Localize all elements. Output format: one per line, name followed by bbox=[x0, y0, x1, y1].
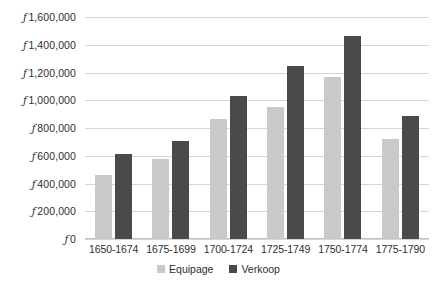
bar-verkoop bbox=[287, 66, 304, 239]
guilder-symbol: ƒ bbox=[23, 67, 29, 79]
guilder-symbol: ƒ bbox=[23, 94, 29, 106]
bar-verkoop bbox=[230, 96, 247, 239]
bar-equipage bbox=[210, 119, 227, 239]
bar-group bbox=[257, 17, 314, 239]
bar-equipage bbox=[324, 77, 341, 239]
y-axis-tick-label: ƒ1,200,000 bbox=[23, 67, 76, 79]
x-axis-tick-label: 1725-1749 bbox=[257, 243, 314, 255]
y-axis-tick-label: ƒ0 bbox=[65, 233, 76, 245]
y-axis-tick-label: ƒ600,000 bbox=[32, 150, 76, 162]
legend-label: Equipage bbox=[169, 263, 213, 275]
bar-equipage bbox=[267, 107, 284, 239]
bar-equipage bbox=[382, 139, 399, 239]
y-axis-tick-label: ƒ400,000 bbox=[32, 178, 76, 190]
bar-verkoop bbox=[172, 141, 189, 240]
legend-label: Verkoop bbox=[241, 263, 280, 275]
bar-group bbox=[85, 17, 142, 239]
bar-equipage bbox=[152, 159, 169, 239]
y-axis-tick-label: ƒ1,600,000 bbox=[23, 11, 76, 23]
y-axis-tick-label: ƒ1,000,000 bbox=[23, 94, 76, 106]
y-axis-tick-label: ƒ200,000 bbox=[32, 205, 76, 217]
gridline bbox=[85, 239, 429, 240]
bar-verkoop bbox=[402, 116, 419, 239]
bar-verkoop bbox=[344, 36, 361, 239]
legend-item-verkoop[interactable]: Verkoop bbox=[229, 263, 280, 275]
guilder-symbol: ƒ bbox=[65, 233, 71, 245]
x-axis-tick-label: 1750-1774 bbox=[314, 243, 371, 255]
guilder-symbol: ƒ bbox=[32, 122, 38, 134]
legend-item-equipage[interactable]: Equipage bbox=[157, 263, 213, 275]
y-axis-labels: ƒ0ƒ200,000ƒ400,000ƒ600,000ƒ800,000ƒ1,000… bbox=[0, 0, 82, 245]
chart-legend: EquipageVerkoop bbox=[0, 263, 437, 275]
y-axis-tick-label: ƒ1,400,000 bbox=[23, 39, 76, 51]
bar-group bbox=[142, 17, 199, 239]
guilder-symbol: ƒ bbox=[32, 150, 38, 162]
guilder-symbol: ƒ bbox=[32, 178, 38, 190]
bar-verkoop bbox=[115, 154, 132, 239]
guilder-symbol: ƒ bbox=[32, 205, 38, 217]
bar-group bbox=[372, 17, 429, 239]
y-axis-tick-label: ƒ800,000 bbox=[32, 122, 76, 134]
x-axis-tick-label: 1650-1674 bbox=[85, 243, 142, 255]
bar-equipage bbox=[95, 175, 112, 239]
bar-groups bbox=[85, 17, 429, 239]
x-axis-tick-label: 1775-1790 bbox=[372, 243, 429, 255]
x-axis-labels: 1650-16741675-16991700-17241725-17491750… bbox=[85, 243, 429, 255]
legend-swatch-icon bbox=[229, 265, 237, 273]
bar-chart: ƒ0ƒ200,000ƒ400,000ƒ600,000ƒ800,000ƒ1,000… bbox=[0, 0, 437, 294]
bar-group bbox=[200, 17, 257, 239]
plot-area bbox=[85, 17, 429, 239]
guilder-symbol: ƒ bbox=[23, 39, 29, 51]
x-axis-tick-label: 1700-1724 bbox=[200, 243, 257, 255]
bar-group bbox=[314, 17, 371, 239]
guilder-symbol: ƒ bbox=[23, 11, 29, 23]
legend-swatch-icon bbox=[157, 265, 165, 273]
x-axis-tick-label: 1675-1699 bbox=[142, 243, 199, 255]
